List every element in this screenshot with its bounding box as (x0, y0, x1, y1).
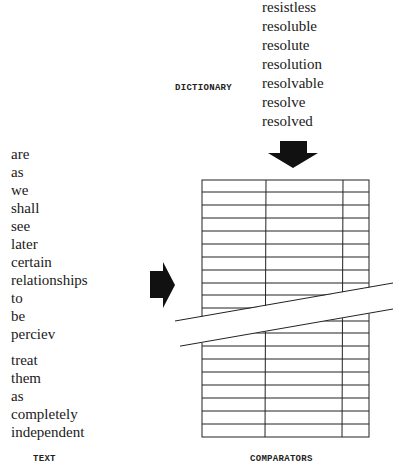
arrow-right-icon (150, 262, 175, 308)
comparator-grid-graphic (0, 0, 400, 473)
text-occluder (10, 343, 70, 352)
diagram-canvas: resistless resoluble resolute resolution… (0, 0, 400, 473)
text-occluder (60, 330, 180, 356)
break-band (150, 283, 395, 352)
arrow-down-icon (268, 141, 318, 168)
